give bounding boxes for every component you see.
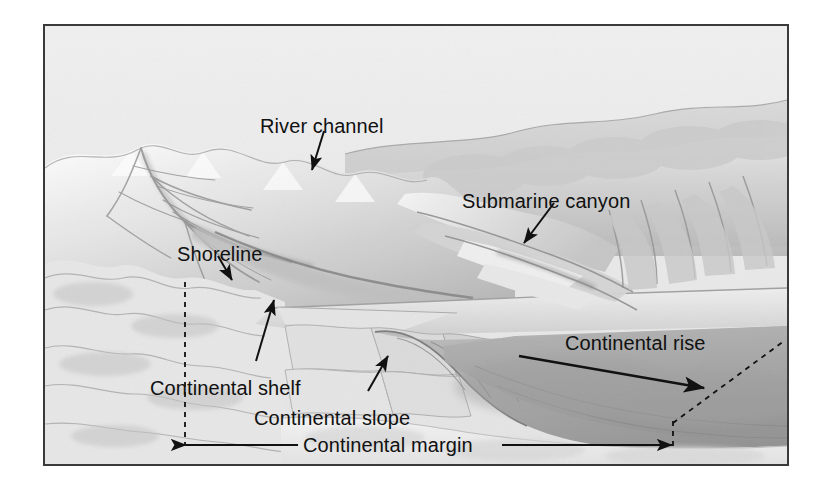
label-continental-slope: Continental slope bbox=[254, 408, 410, 428]
label-river-channel: River channel bbox=[260, 116, 384, 136]
label-shoreline: Shoreline bbox=[177, 244, 262, 264]
label-continental-margin: Continental margin bbox=[303, 435, 473, 455]
figure-canvas: River channel Submarine canyon Shoreline… bbox=[0, 0, 829, 483]
label-continental-shelf: Continental shelf bbox=[150, 378, 301, 398]
label-continental-rise: Continental rise bbox=[565, 333, 706, 353]
label-submarine-canyon: Submarine canyon bbox=[462, 191, 630, 211]
diagram-frame: River channel Submarine canyon Shoreline… bbox=[43, 24, 789, 466]
